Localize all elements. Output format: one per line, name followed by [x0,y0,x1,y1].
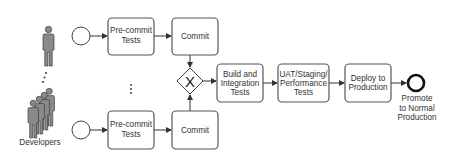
svg-text:Deploy to: Deploy to [351,74,386,83]
svg-text:Performance: Performance [280,79,327,88]
ci-cd-process-diagram: Developers Pre-commit Tests Commit X Pre… [0,0,458,166]
svg-text:Integration: Integration [221,79,260,88]
start-event-top [72,27,90,45]
commit-bottom-box: Commit [172,111,218,149]
precommit-tests-top-box: Pre-commit Tests [108,18,154,55]
ellipsis-rows-icon [130,84,132,94]
svg-text:Build and: Build and [223,70,258,79]
end-event [408,75,424,91]
developers-group-icon [28,88,54,138]
developer-icon [43,26,54,66]
end-event-label-line2: to Normal [399,104,435,113]
exclusive-gateway: X [177,68,203,94]
start-event-bottom [72,121,90,139]
svg-text:Tests: Tests [121,130,140,139]
ellipsis-dots-icon [42,72,47,83]
svg-text:Pre-commit: Pre-commit [110,26,153,35]
svg-text:Pre-commit: Pre-commit [110,120,153,129]
svg-text:Tests: Tests [230,88,249,97]
uat-staging-performance-tests-box: UAT/Staging/ Performance Tests [278,64,329,102]
end-event-label-line1: Promote [402,94,433,103]
commit-top-box: Commit [172,18,218,55]
build-integration-tests-box: Build and Integration Tests [217,64,263,102]
precommit-tests-bottom-box: Pre-commit Tests [108,111,154,149]
deploy-to-production-box: Deploy to Production [345,64,391,102]
gateway-x-icon: X [185,73,195,90]
svg-text:Commit: Commit [181,126,210,135]
svg-text:Production: Production [348,83,388,92]
svg-text:UAT/Staging/: UAT/Staging/ [279,70,328,79]
svg-text:Commit: Commit [181,32,210,41]
svg-text:Tests: Tests [121,36,140,45]
svg-text:Tests: Tests [294,88,313,97]
end-event-label-line3: Production [397,113,437,122]
developers-label: Developers [19,138,60,147]
